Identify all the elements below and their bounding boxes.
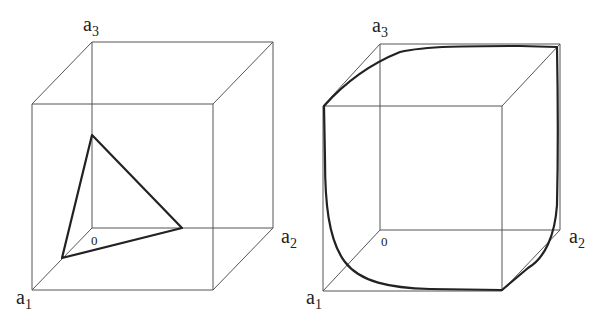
- label-a3: a3: [372, 14, 388, 40]
- label-a3: a3: [83, 13, 99, 39]
- figure-canvas: a3 a2 a1 0 a3 a2 a1 0: [0, 0, 607, 327]
- cube-edge: [502, 44, 560, 106]
- label-a1: a1: [306, 286, 322, 312]
- left-cube: a3 a2 a1 0: [16, 13, 297, 312]
- cube-edge: [32, 42, 92, 104]
- cube-edge: [213, 228, 273, 290]
- label-a1: a1: [16, 286, 32, 312]
- label-origin: 0: [381, 234, 388, 249]
- label-a2: a2: [281, 225, 297, 251]
- cube-edge: [213, 42, 273, 104]
- label-origin: 0: [91, 233, 98, 248]
- right-cube: a3 a2 a1 0: [306, 14, 585, 312]
- label-a2: a2: [569, 225, 585, 251]
- limit-curve: [324, 46, 558, 290]
- simplex-triangle: [62, 135, 182, 258]
- cube-edge-a1-axis: [323, 230, 380, 291]
